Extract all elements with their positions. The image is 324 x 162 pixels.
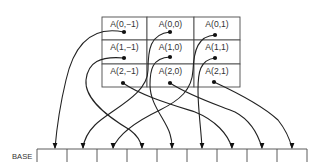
cell-label: A(1,−1) — [110, 42, 139, 52]
cell-label: A(2,−1) — [110, 66, 139, 76]
cell-label: A(0,−1) — [110, 19, 139, 29]
pointer-dot-icon — [168, 30, 172, 34]
mapping-arrow — [168, 81, 265, 149]
cell-label: A(1,1) — [205, 42, 229, 52]
arrowhead-icon — [53, 143, 58, 149]
cell-label: A(0,1) — [205, 19, 229, 29]
pointer-dot-icon — [121, 81, 125, 85]
array-cell: A(0,−1) — [102, 17, 147, 40]
arrow-curve — [214, 82, 292, 148]
pointer-dot-icon — [213, 56, 217, 60]
pointer-dot-icon — [213, 33, 217, 37]
arrowhead-icon — [81, 143, 86, 149]
pointer-dot-icon — [122, 30, 126, 34]
base-label: BASE — [12, 152, 32, 161]
cell-label: A(0,0) — [159, 19, 183, 29]
pointer-dot-icon — [168, 81, 172, 85]
arrowhead-icon — [290, 143, 295, 149]
pointer-dot-icon — [212, 80, 216, 84]
arrowhead-icon — [200, 143, 205, 149]
array-cell: A(1,1) — [194, 40, 240, 64]
pointer-dot-icon — [122, 56, 126, 60]
cell-label: A(2,0) — [159, 66, 183, 76]
arrowhead-icon — [111, 143, 116, 149]
array-cell: A(0,0) — [147, 17, 194, 40]
pointer-dot-icon — [168, 55, 172, 59]
array-cell: A(1,0) — [147, 40, 194, 64]
cell-label: A(2,1) — [205, 66, 229, 76]
array-cell: A(0,1) — [194, 17, 240, 40]
mapping-arrow — [212, 80, 295, 149]
arrowhead-icon — [260, 143, 265, 149]
arrowhead-icon — [230, 143, 235, 149]
arrowhead-icon — [170, 143, 175, 149]
base-memory-row: BASE — [12, 149, 307, 162]
array-mapping-diagram: A(0,−1)A(0,0)A(0,1)A(1,−1)A(1,0)A(1,1)A(… — [0, 0, 324, 162]
arrow-curve — [123, 83, 232, 148]
cell-label: A(1,0) — [159, 42, 183, 52]
array-cell: A(1,−1) — [102, 40, 147, 64]
arrowhead-icon — [140, 143, 145, 149]
array-grid: A(0,−1)A(0,0)A(0,1)A(1,−1)A(1,0)A(1,1)A(… — [102, 17, 240, 87]
